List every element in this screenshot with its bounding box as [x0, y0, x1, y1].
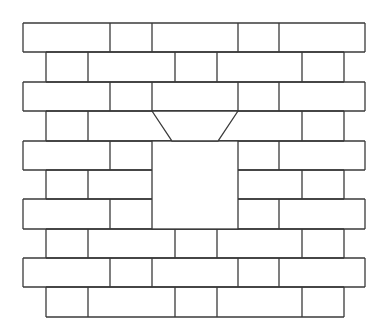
brick-row [23, 82, 365, 111]
brick-row [46, 287, 344, 317]
lintel-trapezoid [152, 111, 238, 141]
brick-row [46, 52, 344, 82]
brick-row [23, 258, 365, 287]
window-square [152, 141, 238, 229]
brick-row [23, 23, 365, 52]
window-opening [152, 111, 238, 229]
brick-row [46, 229, 344, 258]
brick-wall-diagram [0, 0, 391, 333]
